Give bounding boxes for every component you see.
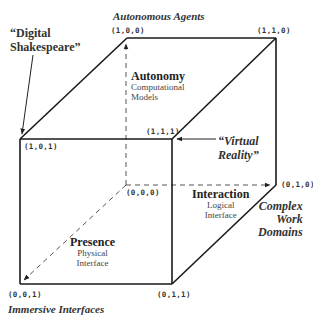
complex-work-domains-label: Complex Work Domains <box>258 200 303 239</box>
digital-shakespeare-label: “Digital Shakespeare” <box>10 26 80 54</box>
autonomy-axis-label: Autonomy Computational Models <box>131 70 185 102</box>
vertex-label-100: (1,0,0) <box>111 27 145 35</box>
digital-shakespeare-pointer <box>22 55 33 134</box>
vertex-label-000: (0,0,0) <box>126 189 160 197</box>
vertex-label-001: (0,0,1) <box>8 291 42 299</box>
interaction-axis-label: Interaction Logical Interface <box>192 188 249 220</box>
vertex-label-101: (1,0,1) <box>24 143 58 151</box>
vertex-label-011: (0,1,1) <box>157 291 191 299</box>
virtual-reality-label: “Virtual Reality” <box>218 134 259 162</box>
vertex-label-010: (0,1,0) <box>281 181 313 189</box>
vertex-label-110: (1,1,0) <box>257 27 291 35</box>
immersive-interfaces-label: Immersive Interfaces <box>8 304 104 315</box>
presence-axis-label: Presence Physical Interface <box>70 236 115 268</box>
autonomous-agents-label: Autonomous Agents <box>113 11 205 22</box>
vertex-label-111: (1,1,1) <box>146 128 180 136</box>
